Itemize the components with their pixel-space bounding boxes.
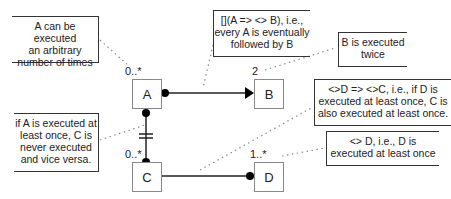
multiplicity-c: 0..* (125, 148, 142, 160)
edge-c-d-end-dot (246, 172, 254, 180)
leader-note-ab (203, 45, 213, 88)
note-cd-line: executed at least once, C is (315, 95, 451, 107)
note-b-line: B is executed (339, 36, 407, 48)
activity-d[interactable]: D (254, 162, 284, 192)
note-ac-line: if A is executed at (14, 117, 98, 129)
activity-a[interactable]: A (132, 79, 162, 109)
note-a-line: A can be executed (12, 20, 98, 44)
multiplicity-b: 2 (252, 65, 258, 77)
multiplicity-a: 0..* (125, 65, 142, 77)
note-cd: <>D => <>C, i.e., if D is executed at le… (314, 79, 451, 126)
multiplicity-d: 1..* (250, 148, 267, 160)
note-ac: if A is executed at least once, C is nev… (14, 113, 99, 172)
note-b: B is executed twice (338, 32, 407, 67)
note-cd-line: <>D => <>C, i.e., if D is (315, 83, 451, 95)
activity-b[interactable]: B (254, 79, 284, 109)
activity-c[interactable]: C (132, 162, 162, 192)
note-a-line: number of times (12, 56, 98, 68)
leader-note-ac (100, 125, 145, 140)
leader-note-cd (200, 107, 313, 170)
edge-a-c-start-dot (142, 109, 150, 117)
note-d: <> D, i.e., D is executed at least once (326, 131, 439, 166)
activity-a-label: A (143, 87, 152, 102)
leader-note-d (282, 148, 325, 156)
note-cd-line: also executed at least once. (315, 107, 451, 119)
edge-a-b-start-dot (161, 89, 169, 97)
note-ac-line: never executed (14, 141, 98, 153)
note-ab-line: every A is eventually (214, 26, 310, 38)
note-b-line: twice (339, 48, 407, 60)
activity-c-label: C (142, 170, 151, 185)
note-ab-line: [](A => <> B), i.e., (214, 14, 310, 26)
note-ac-line: least once, C is (14, 129, 98, 141)
note-ab-line: followed by B (214, 38, 310, 50)
note-a-line: an arbitrary (12, 44, 98, 56)
note-ac-line: and vice versa. (14, 153, 98, 165)
activity-b-label: B (265, 87, 274, 102)
note-ab: [](A => <> B), i.e., every A is eventual… (213, 10, 310, 57)
note-d-line: executed at least once (327, 147, 439, 159)
edge-a-b-arrowhead (245, 87, 254, 99)
leader-note-a (100, 40, 130, 67)
note-a: A can be executed an arbitrary number of… (12, 16, 99, 63)
activity-d-label: D (264, 170, 273, 185)
note-d-line: <> D, i.e., D is (327, 135, 439, 147)
